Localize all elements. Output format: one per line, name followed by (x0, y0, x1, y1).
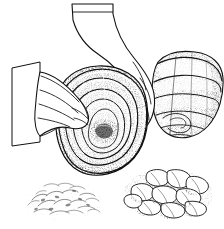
lettuce-preparation-illustration (0, 0, 224, 229)
illustration-canvas: Preparing a head of lettuce whole head o… (0, 0, 224, 229)
